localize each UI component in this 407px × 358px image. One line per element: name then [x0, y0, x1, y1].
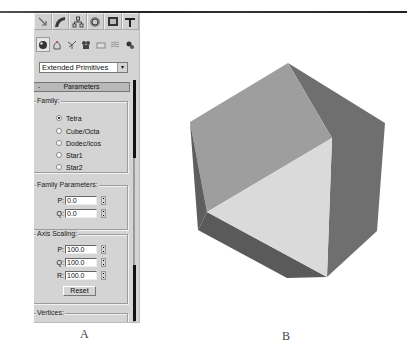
caption-b: B	[282, 329, 290, 344]
polyhedron-render	[0, 0, 407, 358]
caption-a: A	[80, 327, 89, 342]
